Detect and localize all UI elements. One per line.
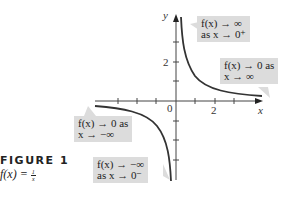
callout-top: f(x) → ∞ as x → 0⁺ (197, 16, 250, 42)
y-axis-label: y (163, 9, 168, 21)
x-tick-label-2: 2 (211, 104, 217, 116)
figure-caption: FIGURE 1 f(x) = 1x (0, 154, 69, 182)
callout-bottom: f(x) → −∞ as x → 0⁻ (93, 157, 148, 183)
callout-left: f(x) → 0 as x → −∞ (74, 116, 132, 142)
y-tick-label-2: 2 (163, 56, 169, 68)
callout-top-line2: as x → 0⁺ (201, 29, 246, 40)
callout-right: f(x) → 0 as x → ∞ (220, 58, 278, 84)
figure-equation: f(x) = 1x (0, 167, 69, 182)
figure-label: FIGURE 1 (0, 154, 69, 167)
equation-fraction: 1x (31, 169, 36, 182)
fraction-numerator: 1 (31, 169, 36, 176)
callout-pointer-bottom (163, 164, 170, 180)
equation-lhs: f(x) = (0, 167, 31, 181)
origin-label: 0 (167, 102, 173, 114)
callout-left-line2: x → −∞ (78, 129, 128, 140)
x-axis-label: x (258, 104, 263, 116)
y-axis-arrow-icon (173, 14, 179, 22)
callout-right-line2: x → ∞ (224, 71, 274, 82)
callout-pointer-left (84, 106, 96, 116)
callout-bottom-line2: as x → 0⁻ (97, 170, 144, 181)
fraction-denominator: x (32, 176, 35, 182)
